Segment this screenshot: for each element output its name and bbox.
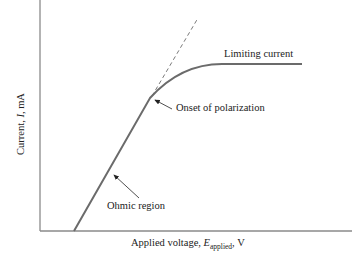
y-axis-label: Current, I, mA [15, 93, 26, 155]
onset-of-polarization-label: Onset of polarization [176, 102, 265, 113]
ohmic-extrapolation-line [152, 18, 198, 96]
ohmic-region-label: Ohmic region [107, 200, 165, 211]
diagram-canvas [0, 0, 352, 273]
ohmic-arrow-icon [114, 175, 139, 198]
onset-arrow-icon [155, 100, 172, 109]
x-axis-label: Applied voltage, Eapplied, V [131, 237, 245, 251]
limiting-current-label: Limiting current [224, 48, 293, 59]
